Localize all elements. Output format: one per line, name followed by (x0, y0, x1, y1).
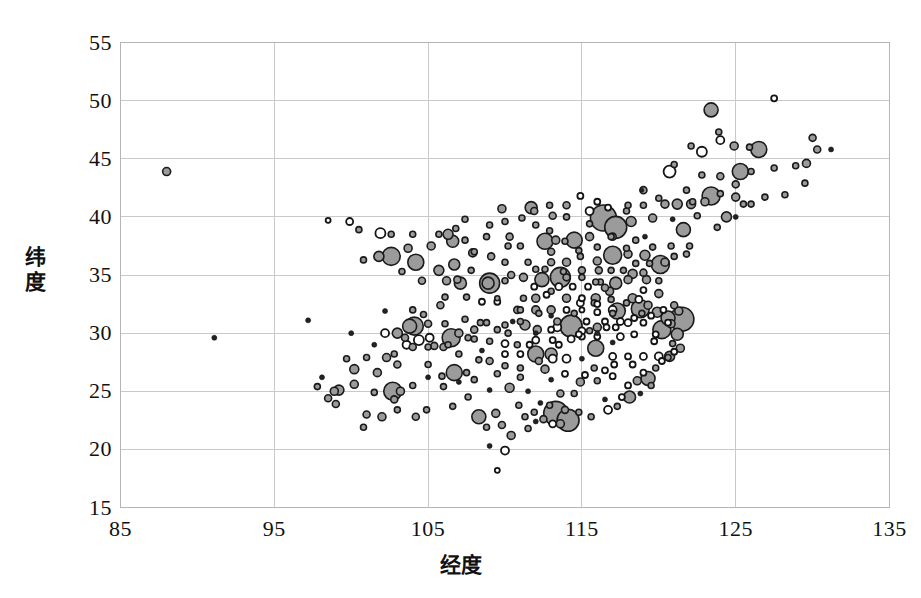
x-axis-title: 经度 (0, 553, 921, 577)
data-point-bubble (372, 342, 377, 347)
data-point-bubble (556, 420, 564, 428)
data-point-bubble (630, 362, 636, 368)
data-point-bubble (644, 301, 652, 309)
data-point-bubble (425, 344, 431, 350)
data-point-bubble (487, 388, 492, 393)
data-point-bubble (495, 468, 500, 473)
data-point-bubble (409, 344, 416, 351)
data-point-bubble (687, 243, 693, 249)
data-point-bubble (697, 147, 707, 157)
data-point-bubble (549, 377, 554, 382)
data-point-bubble (601, 284, 608, 291)
data-point-bubble (388, 231, 394, 237)
data-point-bubble (671, 253, 677, 259)
data-point-bubble (561, 406, 568, 413)
data-point-bubble (640, 188, 644, 192)
data-point-bubble (533, 222, 539, 228)
data-point-bubble (498, 421, 505, 428)
data-point-bubble (520, 295, 526, 301)
data-point-bubble (427, 242, 435, 250)
data-point-bubble (625, 202, 631, 208)
data-point-bubble (650, 244, 656, 250)
data-point-bubble (410, 307, 416, 313)
data-point-bubble (374, 251, 384, 261)
data-point-bubble (410, 231, 416, 237)
data-point-bubble (526, 389, 531, 394)
data-point-bubble (443, 229, 453, 239)
data-point-bubble (638, 391, 643, 396)
data-point-bubble (570, 284, 576, 290)
data-point-bubble (533, 419, 538, 424)
data-point-bubble (326, 218, 331, 223)
data-point-bubble (549, 420, 556, 427)
data-point-bubble (610, 373, 616, 379)
bubble-series (163, 95, 834, 473)
data-point-bubble (670, 341, 676, 347)
data-point-bubble (640, 287, 646, 293)
data-point-bubble (434, 265, 444, 275)
data-point-bubble (608, 267, 614, 273)
data-point-bubble (383, 354, 391, 362)
data-point-bubble (437, 302, 444, 309)
data-point-bubble (829, 147, 834, 152)
data-point-bubble (404, 244, 412, 252)
data-point-bubble (605, 205, 611, 211)
data-point-bubble (464, 294, 470, 300)
data-point-bubble (541, 365, 549, 373)
data-point-bubble (547, 402, 553, 408)
data-point-bubble (661, 258, 669, 266)
data-point-bubble (672, 199, 682, 209)
data-point-bubble (350, 380, 358, 388)
data-point-bubble (542, 266, 548, 272)
data-point-bubble (585, 284, 591, 290)
data-point-bubble (356, 227, 362, 233)
data-point-bubble (732, 164, 748, 180)
data-point-bubble (593, 323, 601, 331)
data-point-bubble (363, 411, 370, 418)
data-point-bubble (771, 95, 777, 101)
data-point-bubble (332, 401, 339, 408)
data-point-bubble (533, 331, 538, 336)
data-point-bubble (548, 259, 555, 266)
data-point-bubble (392, 328, 402, 338)
data-point-bubble (584, 319, 590, 325)
data-point-bubble (594, 309, 600, 315)
data-point-bubble (587, 221, 593, 227)
data-point-bubble (391, 351, 397, 357)
data-point-bubble (578, 267, 585, 274)
data-point-bubble (514, 342, 520, 348)
data-point-bubble (426, 375, 431, 380)
data-point-bubble (604, 246, 622, 264)
data-point-bubble (671, 328, 683, 340)
data-point-bubble (502, 278, 508, 284)
data-point-bubble (555, 283, 562, 290)
data-point-bubble (640, 320, 646, 326)
data-point-bubble (450, 403, 456, 409)
data-point-bubble (717, 173, 724, 180)
data-point-bubble (502, 351, 508, 357)
data-point-bubble (701, 198, 709, 206)
data-point-bubble (762, 194, 768, 200)
data-point-bubble (547, 228, 553, 234)
data-point-bubble (399, 269, 405, 275)
data-point-bubble (510, 319, 515, 324)
data-point-bubble (549, 212, 556, 219)
data-point-bubble (394, 361, 401, 368)
data-point-bubble (649, 214, 657, 222)
y-axis-tick-label: 30 (66, 322, 112, 344)
data-point-bubble (492, 409, 500, 417)
data-point-bubble (809, 134, 816, 141)
data-point-bubble (586, 207, 594, 215)
data-point-bubble (814, 146, 821, 153)
data-point-bubble (579, 295, 585, 301)
data-point-bubble (502, 219, 508, 225)
data-point-bubble (454, 276, 461, 283)
data-point-bubble (517, 307, 523, 313)
data-point-bubble (562, 238, 568, 244)
data-point-bubble (396, 387, 404, 395)
data-point-bubble (449, 259, 460, 270)
data-point-bubble (610, 340, 615, 345)
data-point-bubble (576, 409, 582, 415)
data-point-bubble (566, 232, 582, 248)
y-axis-tick-label: 55 (66, 32, 112, 54)
